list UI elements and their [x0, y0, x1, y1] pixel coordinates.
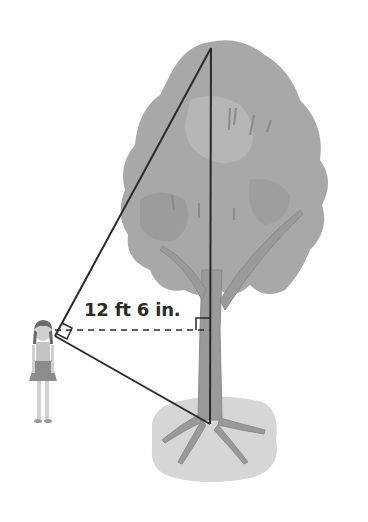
- distance-label: 12 ft 6 in.: [84, 299, 180, 320]
- sightline-bottom: [55, 336, 210, 424]
- girl-figure: [29, 320, 57, 423]
- tree-height-line: [210, 48, 211, 424]
- tree-foliage: [121, 40, 328, 295]
- right-angle-mark-eye: [57, 323, 72, 339]
- diagram-canvas: [0, 0, 368, 522]
